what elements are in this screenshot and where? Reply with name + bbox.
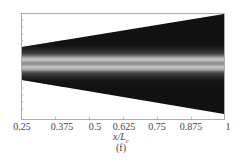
x-tick-label: 1 [226, 121, 231, 132]
x-axis-label-subscript: c [126, 137, 129, 145]
x-tick-label: 0.5 [89, 121, 102, 132]
x-tick-label: 0.75 [148, 121, 166, 132]
x-tick-label: 0.875 [180, 121, 203, 132]
x-tick-label: 0.25 [13, 121, 31, 132]
x-axis-label-main: x/L [113, 131, 126, 142]
panel-label: (f) [116, 142, 126, 153]
x-tick-label: 0.375 [51, 121, 74, 132]
